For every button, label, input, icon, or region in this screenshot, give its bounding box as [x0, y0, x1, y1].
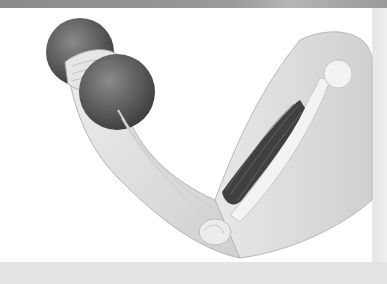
humerus-head	[324, 60, 352, 88]
arm-illustration	[0, 0, 387, 284]
dumbbell-front-weight	[79, 54, 155, 130]
elbow-joint	[199, 219, 231, 245]
